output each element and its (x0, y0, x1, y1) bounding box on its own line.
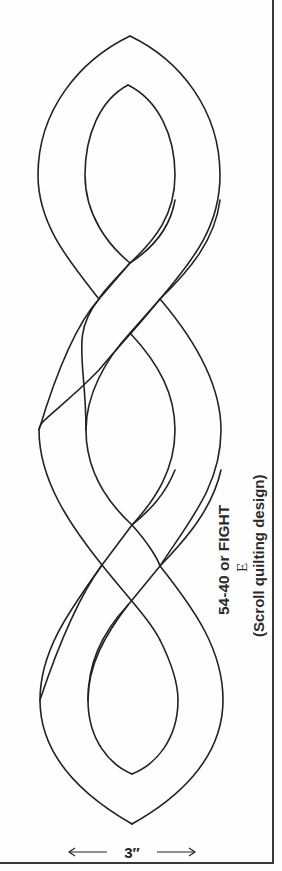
width-measurement: 3″ (68, 842, 196, 862)
strand-a-outer (99, 36, 220, 299)
design-letter: E (234, 563, 251, 572)
measurement-label: 3″ (124, 844, 140, 861)
strand-b-inner (85, 85, 175, 774)
quilting-template-page: 54-40 or FIGHT E (Scroll quilting design… (0, 0, 282, 871)
bottom-lobe-right-inner (132, 640, 178, 774)
crossing-1-band-edge-upper (39, 200, 175, 430)
arrow-left-icon (68, 847, 108, 857)
crossing-1-band-edge-lower (86, 200, 220, 430)
arrow-right-icon (156, 847, 196, 857)
strand-a-right-edge (39, 36, 220, 640)
scroll-cable-design (0, 0, 282, 871)
design-title: 54-40 or FIGHT (215, 505, 233, 615)
strand-a-inner-edge (82, 85, 175, 566)
design-subtitle: (Scroll quilting design) (250, 475, 267, 638)
strand-b-outer (38, 36, 221, 824)
